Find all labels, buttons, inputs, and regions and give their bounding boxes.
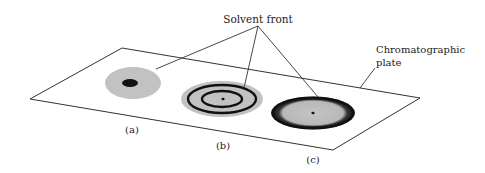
spot-label-a: (a) [125, 124, 139, 135]
solvent-front-label: Solvent front [223, 13, 293, 25]
plate-leader [360, 68, 375, 88]
spot-b [181, 81, 263, 117]
dark-spot-a [122, 79, 138, 87]
chromatography-diagram: Solvent front Chromatographic plate (a) … [0, 0, 485, 173]
plate-label-line1: Chromatographic [376, 44, 466, 55]
center-dot-c [311, 112, 314, 114]
spot-a [105, 67, 161, 99]
spot-c [271, 97, 355, 130]
spot-label-b: (b) [216, 140, 230, 151]
plate-label-line2: plate [376, 57, 402, 68]
spot-label-c: (c) [306, 154, 320, 165]
center-dot-b [221, 98, 224, 100]
